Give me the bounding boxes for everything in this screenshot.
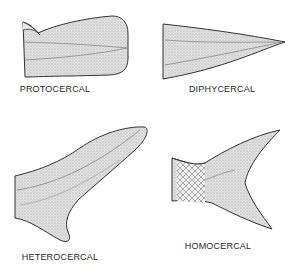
protocercal-tail <box>23 16 128 77</box>
label-diphycercal: DIPHYCERCAL <box>189 84 255 94</box>
fish-tail-diagram <box>0 0 300 273</box>
heterocercal-tail <box>15 127 147 242</box>
diphycercal-tail <box>163 24 285 79</box>
label-heterocercal: HETEROCERCAL <box>22 252 98 262</box>
label-homocercal: HOMOCERCAL <box>185 241 252 251</box>
homocercal-tail <box>172 130 280 229</box>
label-protocercal: PROTOCERCAL <box>20 84 91 94</box>
